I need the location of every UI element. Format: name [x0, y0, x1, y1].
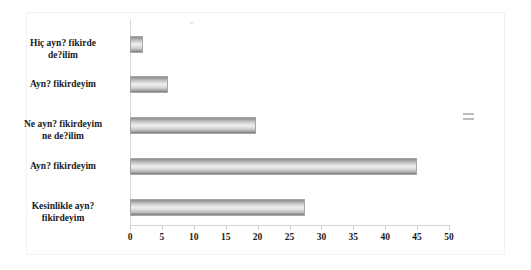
x-tick-label-40: 40 — [373, 232, 397, 242]
category-label-3: Ayn? fikirdeyim — [0, 160, 128, 172]
category-label-4: Kesinlikle ayn? fikirdeyim — [0, 200, 128, 224]
x-tick-label-30: 30 — [309, 232, 333, 242]
chart-frame: Hiç ayn? fikirde de?ilim Ayn? fikirdeyim… — [26, 12, 505, 255]
x-tick-mark-15 — [226, 226, 227, 230]
plot-area: Hiç ayn? fikirde de?ilim Ayn? fikirdeyim… — [27, 13, 506, 256]
bar-ayni-fikirdeyim-2 — [130, 76, 168, 93]
legend-marker-icon — [463, 113, 474, 122]
x-tick-label-15: 15 — [214, 232, 238, 242]
bar-ayni-fikirdeyim-1 — [130, 158, 417, 175]
x-tick-label-10: 10 — [182, 232, 206, 242]
bar-ne-ayni-fikirdeyim-ne-degilim — [130, 117, 256, 134]
x-tick-mark-40 — [385, 226, 386, 230]
x-tick-mark-45 — [417, 226, 418, 230]
x-tick-label-25: 25 — [278, 232, 302, 242]
x-tick-mark-10 — [194, 226, 195, 230]
category-label-1: Ayn? fikirdeyim — [0, 78, 128, 90]
bar-kesinlikle-ayni-fikirdeyim — [130, 199, 305, 216]
x-tick-label-0: 0 — [118, 232, 142, 242]
x-tick-mark-35 — [353, 226, 354, 230]
x-tick-mark-0 — [130, 226, 131, 230]
x-tick-label-50: 50 — [437, 232, 461, 242]
x-tick-mark-20 — [258, 226, 259, 230]
x-tick-label-5: 5 — [150, 232, 174, 242]
bar-hic-ayni-fikirde-degilim — [130, 36, 143, 53]
category-label-0: Hiç ayn? fikirde de?ilim — [0, 37, 128, 61]
x-tick-mark-50 — [449, 226, 450, 230]
x-tick-mark-25 — [290, 226, 291, 230]
legend-marker-line-top — [463, 113, 474, 115]
legend-marker-line-bottom — [463, 118, 474, 120]
x-tick-mark-5 — [162, 226, 163, 230]
x-tick-label-20: 20 — [246, 232, 270, 242]
scan-speck — [190, 22, 193, 24]
x-tick-mark-30 — [321, 226, 322, 230]
x-tick-label-35: 35 — [341, 232, 365, 242]
x-tick-label-45: 45 — [405, 232, 429, 242]
category-label-2: Ne ayn? fikirdeyim ne de?ilim — [0, 118, 128, 142]
